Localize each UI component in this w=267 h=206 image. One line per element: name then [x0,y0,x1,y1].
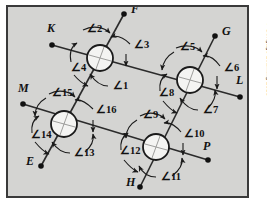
endpoint-dot-E [38,163,44,169]
angle-label-3: ∠3 [134,39,149,50]
point-label-K: K [46,21,56,35]
endpoint-dot-M [20,101,26,107]
angle-label-6: ∠6 [224,62,239,73]
leader-angle-10 [164,123,181,132]
angle-diagram-svg: ∠1 ∠2 ∠3 ∠4 ∠5 ∠6 ∠7 ∠8 ∠9 ∠10 ∠11 ∠12 ∠… [0,0,267,206]
point-label-F: F [130,2,139,16]
leader-angle-1 [90,74,108,86]
leader-angle-8b [163,101,177,113]
leader-angle-15b [35,98,46,116]
point-label-H: H [125,175,136,189]
point-label-P: P [203,139,211,153]
angle-label-5: ∠5 [180,41,195,52]
point-label-L: L [235,73,243,87]
angle-label-16: ∠16 [96,104,117,115]
angle-label-12: ∠12 [120,145,141,156]
endpoint-dot-H [137,184,143,190]
angle-label-10: ∠10 [184,128,205,139]
angle-label-15: ∠15 [52,87,73,98]
endpoint-dot-L [237,94,243,100]
leader-angle-14b [35,142,49,154]
geometry-figure: ∠1 ∠2 ∠3 ∠4 ∠5 ∠6 ∠7 ∠8 ∠9 ∠10 ∠11 ∠12 ∠… [0,0,267,206]
angle-label-1: ∠1 [113,80,128,91]
leader-angle-13 [52,142,70,153]
angle-label-7: ∠7 [203,104,218,115]
diagram-canvas: ∠1 ∠2 ∠3 ∠4 ∠5 ∠6 ∠7 ∠8 ∠9 ∠10 ∠11 ∠12 ∠… [0,0,267,206]
point-label-G: G [222,24,231,38]
angle-label-4: ∠4 [71,62,87,73]
leader-angle-4 [70,43,77,62]
angle-label-11: ∠11 [161,171,181,182]
leader-angle-6 [203,56,220,66]
angle-label-14: ∠14 [31,129,52,140]
endpoint-dot-group [20,11,243,190]
angle-label-2: ∠2 [87,23,102,34]
leader-angle-5b [162,52,174,70]
angle-label-9: ∠9 [143,109,158,120]
angle-label-13: ∠13 [74,147,95,158]
point-label-M: M [17,81,29,95]
point-label-E: E [25,154,34,168]
leader-angle-12b [124,160,138,172]
endpoint-dot-K [49,42,55,48]
leader-angle-16 [75,100,93,109]
endpoint-dot-G [212,33,218,39]
leader-angle-3 [111,36,130,44]
copyright-notice: © Cengage Learning 2013 [266,22,267,96]
endpoint-dot-F [121,11,127,17]
angle-label-8: ∠8 [159,87,174,98]
endpoint-dot-P [205,157,211,163]
